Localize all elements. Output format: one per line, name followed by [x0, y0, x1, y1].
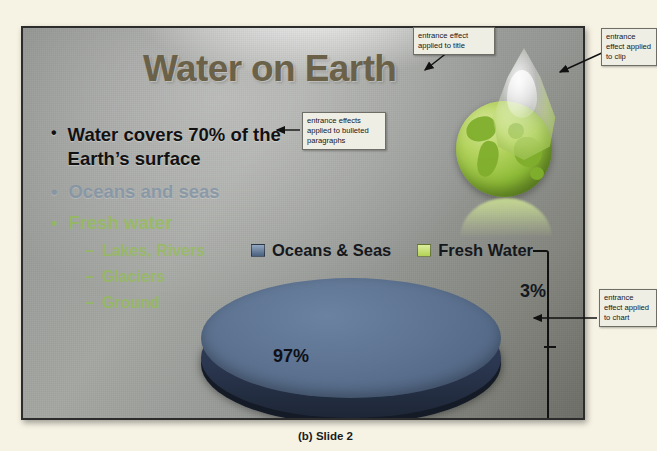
callout-clip: entrance effect applied to clip — [601, 28, 657, 66]
sub-bullet-item-3-label: Ground — [102, 294, 160, 312]
slide-title: Water on Earth — [143, 48, 396, 90]
legend-item-fresh-water-label: Fresh Water — [438, 241, 533, 260]
bullet-marker: • — [51, 123, 57, 172]
pie-top-face — [201, 278, 501, 398]
bullet-item-1: • Water covers 70% of the Earth’s surfac… — [51, 123, 321, 172]
sub-bullet-item-1-label: Lakes, Rivers — [102, 242, 205, 260]
bullet-marker: • — [51, 212, 57, 234]
bullet-item-2: • Oceans and seas — [51, 181, 321, 203]
bullet-item-3-label: Fresh water — [68, 212, 172, 234]
legend-swatch-icon — [251, 244, 265, 257]
figure-caption: (b) Slide 2 — [0, 430, 651, 442]
pie-label-oceans: 97% — [273, 346, 309, 367]
legend-item-fresh-water: Fresh Water — [417, 241, 533, 260]
pie-chart[interactable]: 97% 3% — [191, 276, 511, 420]
water-droplet-icon — [490, 48, 558, 160]
bullet-item-2-label: Oceans and seas — [68, 181, 219, 203]
chart-legend: Oceans & Seas Fresh Water — [251, 241, 533, 260]
chart-bracket — [533, 250, 549, 420]
clipart-reflection — [460, 198, 552, 238]
globe-droplet-clipart — [438, 46, 578, 236]
chart-bracket-stem — [544, 346, 556, 348]
bullet-marker: • — [51, 181, 57, 203]
bullet-item-3: • Fresh water — [51, 212, 321, 234]
bullet-item-1-label: Water covers 70% of the Earth’s surface — [68, 123, 283, 172]
callout-chart: entrance effect applied to chart — [599, 289, 657, 327]
legend-item-oceans: Oceans & Seas — [251, 241, 391, 260]
powerpoint-slide[interactable]: Water on Earth • Water covers 70% of the… — [21, 26, 585, 420]
legend-item-oceans-label: Oceans & Seas — [272, 241, 391, 260]
legend-swatch-icon — [417, 244, 431, 257]
sub-bullet-item-2-label: Glaciers — [102, 268, 165, 286]
sub-bullet-marker: – — [85, 294, 94, 312]
sub-bullet-marker: – — [85, 268, 94, 286]
sub-bullet-marker: – — [85, 242, 94, 260]
